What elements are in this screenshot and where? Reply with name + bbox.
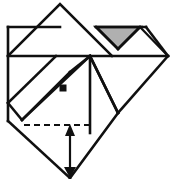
mid-diagonal-to-center	[70, 56, 90, 72]
figure-root	[0, 0, 172, 179]
outer-diamond-left-lower	[8, 121, 70, 178]
right-of-shaded-diagonal	[140, 27, 168, 56]
fold-diagram-svg	[0, 0, 172, 179]
outer-diamond-right-lower	[70, 113, 118, 178]
inner-diamond-left-edge	[8, 103, 22, 120]
right-lower-diagonal	[118, 56, 168, 113]
mid-left-diagonal	[22, 72, 70, 120]
corner-point-marker	[60, 85, 67, 92]
top-left-roof-edge	[8, 4, 112, 56]
lower-right-outer-diagonal	[90, 56, 118, 113]
